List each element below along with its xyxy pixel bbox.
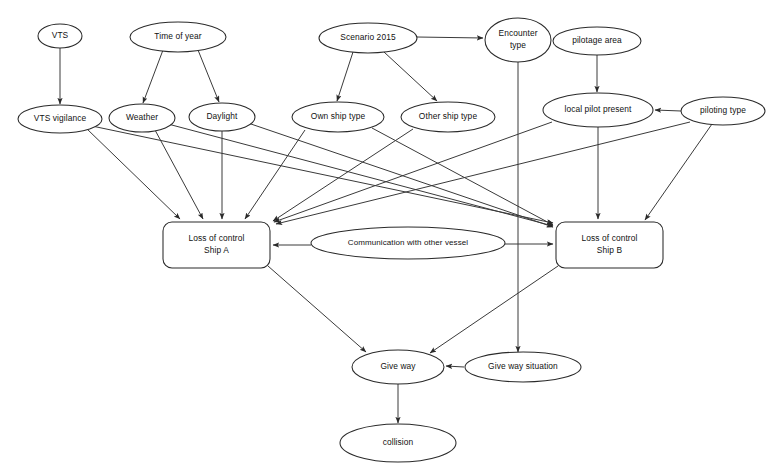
node-own_ship_type[interactable]: Own ship type <box>292 102 384 132</box>
node-label-communication: Communication with other vessel <box>348 238 469 247</box>
node-label-encounter_type: Encounter <box>498 28 537 38</box>
edge-scenario_2015-to-own_ship_type <box>337 52 353 101</box>
edge-weather-to-loss_ship_b <box>168 124 553 226</box>
node-label-loss_ship_b: Ship B <box>597 245 623 255</box>
node-label-encounter_type: type <box>510 40 526 50</box>
node-loss_ship_a[interactable]: Loss of controlShip A <box>163 222 270 268</box>
node-label-other_ship_type: Other ship type <box>419 111 478 121</box>
node-time_of_year[interactable]: Time of year <box>130 22 226 52</box>
node-label-time_of_year: Time of year <box>154 31 202 41</box>
node-label-pilotage_area: pilotage area <box>572 35 622 45</box>
edge-piloting_type-to-local_pilot <box>655 110 681 111</box>
node-other_ship_type[interactable]: Other ship type <box>401 102 495 132</box>
node-label-collision: collision <box>383 437 414 447</box>
node-label-own_ship_type: Own ship type <box>311 111 366 121</box>
node-loss_ship_b[interactable]: Loss of controlShip B <box>556 222 663 268</box>
edge-vts_vigilance-to-loss_ship_b <box>92 126 553 223</box>
node-label-give_way: Give way <box>380 361 416 371</box>
node-label-weather: Weather <box>126 112 158 122</box>
node-vts_vigilance[interactable]: VTS vigilance <box>18 105 102 133</box>
node-label-loss_ship_b: Loss of control <box>582 233 638 243</box>
edge-piloting_type-to-loss_ship_b <box>645 124 712 220</box>
edge-give_way_sit-to-give_way <box>446 366 464 367</box>
node-label-give_way_sit: Give way situation <box>488 361 558 371</box>
node-label-local_pilot: local pilot present <box>564 104 632 114</box>
node-give_way_sit[interactable]: Give way situation <box>465 352 581 382</box>
edge-loss_ship_b-to-give_way <box>430 266 558 353</box>
node-label-vts: VTS <box>52 30 69 40</box>
edge-time_of_year-to-weather <box>143 50 163 103</box>
node-pilotage_area[interactable]: pilotage area <box>553 27 641 55</box>
node-label-vts_vigilance: VTS vigilance <box>34 113 87 123</box>
edge-time_of_year-to-daylight <box>198 50 219 102</box>
nodes-layer: VTSTime of yearScenario 2015Encountertyp… <box>18 18 765 462</box>
node-local_pilot[interactable]: local pilot present <box>543 93 653 127</box>
node-daylight[interactable]: Daylight <box>189 103 255 131</box>
node-label-loss_ship_a: Loss of control <box>189 233 245 243</box>
edge-scenario_2015-to-encounter_type <box>417 37 483 38</box>
edge-scenario_2015-to-other_ship_type <box>384 52 437 101</box>
node-piloting_type[interactable]: piloting type <box>681 97 765 125</box>
diagram-canvas: VTSTime of yearScenario 2015Encountertyp… <box>0 0 777 474</box>
node-communication[interactable]: Communication with other vessel <box>311 227 505 259</box>
node-give_way[interactable]: Give way <box>352 350 444 384</box>
edge-local_pilot-to-loss_ship_a <box>274 122 552 222</box>
node-label-piloting_type: piloting type <box>700 105 746 115</box>
node-vts[interactable]: VTS <box>38 24 82 48</box>
node-label-loss_ship_a: Ship A <box>204 245 229 255</box>
node-encounter_type[interactable]: Encountertype <box>485 18 551 62</box>
node-weather[interactable]: Weather <box>109 104 175 132</box>
edge-weather-to-loss_ship_a <box>155 130 203 219</box>
node-label-scenario_2015: Scenario 2015 <box>340 32 396 42</box>
node-label-daylight: Daylight <box>206 111 238 121</box>
node-scenario_2015[interactable]: Scenario 2015 <box>319 23 417 53</box>
bayesian-network-graph: VTSTime of yearScenario 2015Encountertyp… <box>0 0 777 474</box>
edge-loss_ship_a-to-give_way <box>268 266 366 352</box>
node-collision[interactable]: collision <box>340 424 456 462</box>
